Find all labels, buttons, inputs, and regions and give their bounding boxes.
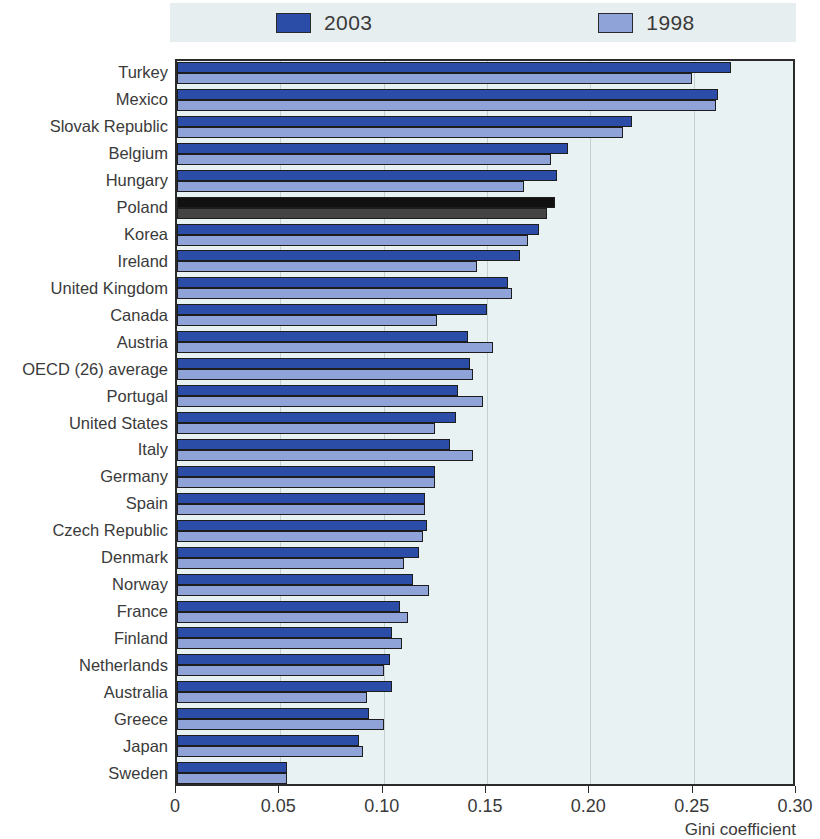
bar-1998 xyxy=(177,450,473,461)
bar-2003 xyxy=(177,708,369,719)
x-tick-label: 0 xyxy=(170,796,180,817)
y-axis-label: Turkey xyxy=(0,63,168,81)
chart-root: 2003 1998 TurkeyMexicoSlovak RepublicBel… xyxy=(0,0,820,839)
x-tick-label: 0.25 xyxy=(674,796,709,817)
bar-1998 xyxy=(177,369,473,380)
y-axis-label: France xyxy=(0,602,168,620)
bar-row xyxy=(177,357,793,384)
bar-1998 xyxy=(177,773,287,784)
legend-label-1998: 1998 xyxy=(646,11,694,35)
bar-1998 xyxy=(177,638,402,649)
y-axis-label: Canada xyxy=(0,306,168,324)
legend-swatch-2003 xyxy=(276,13,311,33)
x-tick xyxy=(795,786,796,793)
bar-1998 xyxy=(177,477,435,488)
bar-1998 xyxy=(177,746,363,757)
bar-1998 xyxy=(177,288,512,299)
bar-row xyxy=(177,88,793,115)
bar-row xyxy=(177,519,793,546)
bar-2003 xyxy=(177,331,468,342)
bar-1998 xyxy=(177,692,367,703)
plot-area xyxy=(175,59,795,786)
bar-row xyxy=(177,223,793,250)
bar-2003 xyxy=(177,466,435,477)
bar-2003 xyxy=(177,143,568,154)
bar-row xyxy=(177,411,793,438)
bar-row xyxy=(177,115,793,142)
legend-label-2003: 2003 xyxy=(324,11,372,35)
bar-row xyxy=(177,384,793,411)
bar-1998 xyxy=(177,100,716,111)
y-axis-label: Greece xyxy=(0,710,168,728)
bar-2003 xyxy=(177,493,425,504)
bar-1998 xyxy=(177,396,483,407)
y-axis-label: Ireland xyxy=(0,252,168,270)
bar-2003 xyxy=(177,601,400,612)
bar-row xyxy=(177,438,793,465)
bar-2003 xyxy=(177,735,359,746)
legend-swatch-1998 xyxy=(598,13,633,33)
y-axis-label: Sweden xyxy=(0,764,168,782)
x-tick-label: 0.10 xyxy=(364,796,399,817)
bar-rows xyxy=(177,61,793,784)
bar-1998 xyxy=(177,315,437,326)
y-axis-label: Spain xyxy=(0,494,168,512)
y-axis-label: Italy xyxy=(0,440,168,458)
y-axis-label: United Kingdom xyxy=(0,279,168,297)
bar-1998 xyxy=(177,154,551,165)
bar-1998 xyxy=(177,208,547,219)
x-tick xyxy=(692,786,693,793)
x-tick-label: 0.20 xyxy=(571,796,606,817)
bar-2003 xyxy=(177,358,470,369)
bar-2003 xyxy=(177,385,458,396)
x-axis-title: Gini coefficient xyxy=(685,820,796,839)
bar-1998 xyxy=(177,181,524,192)
bar-2003 xyxy=(177,574,413,585)
bar-2003 xyxy=(177,762,287,773)
bar-2003 xyxy=(177,412,456,423)
bar-2003 xyxy=(177,170,557,181)
y-axis-label: Slovak Republic xyxy=(0,117,168,135)
bar-1998 xyxy=(177,504,425,515)
bar-2003 xyxy=(177,89,718,100)
x-tick-label: 0.15 xyxy=(467,796,502,817)
bar-row xyxy=(177,196,793,223)
bar-row xyxy=(177,303,793,330)
bar-row xyxy=(177,600,793,627)
bar-row xyxy=(177,492,793,519)
x-tick xyxy=(382,786,383,793)
bar-2003 xyxy=(177,277,508,288)
bar-row xyxy=(177,465,793,492)
legend-item-1998: 1998 xyxy=(598,11,694,35)
bar-1998 xyxy=(177,719,384,730)
bar-1998 xyxy=(177,342,493,353)
y-axis-label: Finland xyxy=(0,629,168,647)
bar-1998 xyxy=(177,558,404,569)
y-axis-label: Mexico xyxy=(0,90,168,108)
bar-row xyxy=(177,330,793,357)
bar-row xyxy=(177,573,793,600)
bar-2003 xyxy=(177,681,392,692)
bar-1998 xyxy=(177,612,408,623)
bar-row xyxy=(177,653,793,680)
bar-2003 xyxy=(177,304,487,315)
y-axis-label: Netherlands xyxy=(0,656,168,674)
bar-2003 xyxy=(177,627,392,638)
bar-row xyxy=(177,546,793,573)
y-axis-label: Belgium xyxy=(0,144,168,162)
bar-2003 xyxy=(177,116,632,127)
bar-1998 xyxy=(177,261,477,272)
bar-2003 xyxy=(177,439,450,450)
bar-1998 xyxy=(177,423,435,434)
y-axis-label: Hungary xyxy=(0,171,168,189)
bar-2003 xyxy=(177,520,427,531)
bar-2003 xyxy=(177,224,539,235)
bar-1998 xyxy=(177,235,528,246)
bar-row xyxy=(177,761,793,788)
y-axis-label: Denmark xyxy=(0,548,168,566)
bar-row xyxy=(177,61,793,88)
bar-row xyxy=(177,680,793,707)
y-axis-label: United States xyxy=(0,414,168,432)
bar-row xyxy=(177,169,793,196)
bar-row xyxy=(177,707,793,734)
